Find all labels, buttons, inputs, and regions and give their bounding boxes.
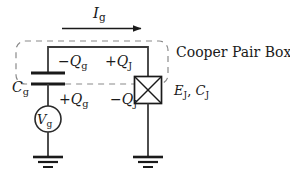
label-junction-charge-negative: −QJ — [110, 92, 137, 106]
cooper-pair-box-figure: Ig −Qg +QJ Cg +Qg −QJ Vg Cooper Pair Box… — [0, 0, 290, 180]
label-junction-charge-positive: +QJ — [105, 54, 132, 68]
label-cooper-pair-box: Cooper Pair Box — [176, 45, 290, 59]
josephson-junction — [135, 77, 162, 104]
label-gate-voltage: Vg — [37, 113, 52, 126]
label-gate-charge-positive: +Qg — [59, 92, 89, 106]
label-gate-capacitor: Cg — [12, 80, 29, 94]
label-junction-parameters: EJ, CJ — [174, 84, 209, 97]
ground-right — [133, 157, 163, 167]
label-gate-charge-negative: −Qg — [58, 54, 88, 68]
circuit-drawing — [0, 0, 290, 180]
label-current-ig: Ig — [93, 6, 106, 21]
ground-left — [33, 157, 63, 167]
